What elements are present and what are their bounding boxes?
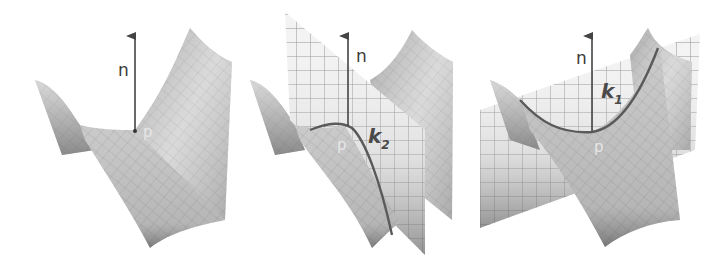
normal-label: n [118,60,129,80]
normal-label: n [356,46,367,66]
point-label: p [337,136,347,154]
panel-normal-section-k1: n p k1 [480,0,724,269]
k1-section-diagram: n p k1 [480,0,724,269]
point-label: p [143,123,153,141]
k2-section-diagram: n p k2 [240,0,480,269]
point-p-marker [133,129,137,133]
point-label: p [594,138,604,156]
normal-label: n [576,48,587,68]
panel-normal-section-k2: n p k2 [240,0,480,269]
saddle-surface-diagram: n p [0,0,240,269]
panel-saddle-surface: n p [0,0,240,269]
